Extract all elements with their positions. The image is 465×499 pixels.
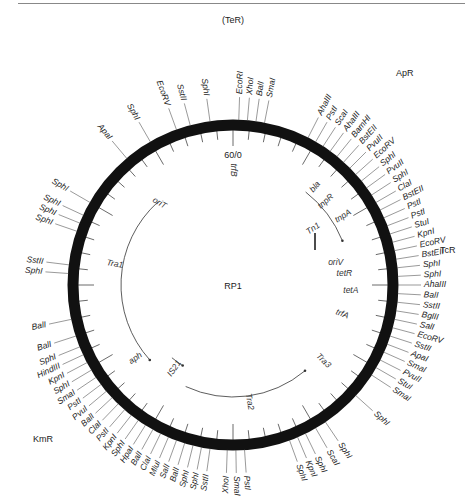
restriction-site: SphI bbox=[125, 102, 150, 143]
site-leader-line bbox=[72, 370, 92, 382]
site-leader-line bbox=[371, 375, 390, 388]
site-leader-line bbox=[110, 410, 125, 427]
tick-mark bbox=[372, 330, 381, 333]
tick-mark bbox=[201, 428, 203, 437]
restriction-site: SmaI bbox=[232, 450, 242, 497]
site-label: BalI bbox=[36, 338, 54, 352]
site-label: SphI bbox=[50, 176, 71, 194]
tick-mark bbox=[217, 131, 218, 140]
site-leader-line bbox=[46, 262, 69, 265]
tick-mark bbox=[170, 418, 174, 426]
tick-mark bbox=[129, 170, 135, 177]
site-leader-line bbox=[387, 218, 408, 226]
site-leader-line bbox=[188, 445, 194, 467]
site-leader-line bbox=[247, 98, 249, 121]
site-leader-line bbox=[151, 433, 161, 454]
tick-mark bbox=[372, 237, 381, 240]
site-leader-line bbox=[77, 377, 96, 390]
site-label: PstI bbox=[242, 475, 253, 491]
gene-label: oriV bbox=[328, 257, 344, 267]
site-leader-line bbox=[239, 97, 240, 120]
tick-mark bbox=[303, 151, 311, 165]
gene-label: oriT bbox=[151, 195, 169, 211]
site-leader-line bbox=[387, 344, 408, 352]
tick-mark bbox=[248, 430, 249, 439]
site-leader-line bbox=[125, 420, 138, 439]
site-leader-line bbox=[398, 294, 421, 295]
gene-label: tetA bbox=[343, 285, 358, 295]
tick-mark bbox=[331, 393, 337, 400]
gene-label: trfB bbox=[229, 163, 239, 177]
restriction-site: SstII bbox=[175, 83, 190, 126]
tick-mark bbox=[129, 393, 135, 400]
gene-label: Tn1 bbox=[304, 220, 322, 237]
tick-mark bbox=[170, 143, 174, 151]
tra2-arc-arrowhead bbox=[304, 369, 307, 372]
gene-label: Tra2 bbox=[244, 393, 257, 412]
tra1-arc-arrowhead bbox=[148, 359, 151, 362]
site-label: XhoI bbox=[220, 475, 231, 494]
site-leader-line bbox=[70, 191, 90, 203]
site-leader-line bbox=[169, 108, 177, 130]
site-leader-line bbox=[117, 415, 131, 433]
tick-mark bbox=[366, 344, 374, 348]
gene-label: Tra1 bbox=[106, 257, 125, 270]
site-leader-line bbox=[397, 302, 420, 304]
resistance-marker: (TeR) bbox=[222, 15, 244, 25]
tick-mark bbox=[278, 424, 281, 433]
site-label: EcoRI bbox=[234, 70, 245, 94]
restriction-site: SstII bbox=[397, 299, 441, 311]
site-leader-line bbox=[366, 174, 385, 188]
tick-mark bbox=[319, 403, 324, 410]
site-leader-line bbox=[392, 328, 414, 334]
tick-mark bbox=[217, 430, 218, 439]
site-leader-line bbox=[356, 159, 373, 174]
tick-mark bbox=[108, 194, 115, 199]
tick-mark bbox=[118, 383, 125, 389]
restriction-site: SphI bbox=[25, 265, 69, 276]
site-label: SphI bbox=[125, 102, 143, 123]
tick-mark bbox=[156, 151, 164, 165]
site-leader-line bbox=[398, 275, 421, 276]
tick-mark bbox=[351, 194, 358, 199]
site-leader-line bbox=[63, 206, 84, 216]
site-leader-line bbox=[376, 368, 396, 380]
restriction-site: SphI bbox=[398, 268, 442, 279]
site-leader-line bbox=[102, 404, 118, 421]
site-leader-line bbox=[63, 355, 84, 365]
gene-label: tetR bbox=[337, 268, 353, 278]
restriction-site: EcoRV bbox=[155, 79, 177, 130]
tick-mark bbox=[378, 300, 387, 301]
tick-mark bbox=[341, 383, 348, 389]
tick-mark bbox=[376, 315, 385, 317]
tick-mark bbox=[331, 170, 337, 177]
site-leader-line bbox=[380, 360, 400, 370]
site-leader-line bbox=[371, 183, 390, 196]
site-leader-line bbox=[380, 200, 400, 210]
restriction-site: SphI bbox=[356, 395, 393, 428]
site-leader-line bbox=[96, 398, 113, 414]
tick-mark bbox=[99, 355, 113, 363]
tick-mark bbox=[201, 133, 203, 142]
site-leader-line bbox=[184, 103, 190, 125]
resistance-marker: TcR bbox=[440, 245, 456, 255]
tick-mark bbox=[366, 222, 374, 226]
site-leader-line bbox=[83, 384, 101, 398]
site-leader-line bbox=[49, 319, 71, 324]
site-leader-line bbox=[226, 450, 227, 473]
tick-mark bbox=[303, 405, 311, 419]
tick-mark bbox=[353, 208, 367, 216]
gene-label: IS21 bbox=[165, 358, 183, 378]
site-leader-line bbox=[394, 246, 416, 251]
site-label: AhaIII bbox=[423, 279, 447, 289]
site-leader-line bbox=[55, 224, 77, 231]
tick-mark bbox=[118, 181, 125, 187]
gene-label: aph bbox=[126, 349, 144, 365]
site-leader-line bbox=[289, 440, 297, 462]
site-leader-line bbox=[297, 437, 306, 458]
tick-mark bbox=[86, 330, 95, 333]
site-leader-line bbox=[390, 336, 412, 343]
tick-mark bbox=[86, 237, 95, 240]
site-leader-line bbox=[350, 152, 366, 168]
site-leader-line bbox=[305, 433, 315, 454]
